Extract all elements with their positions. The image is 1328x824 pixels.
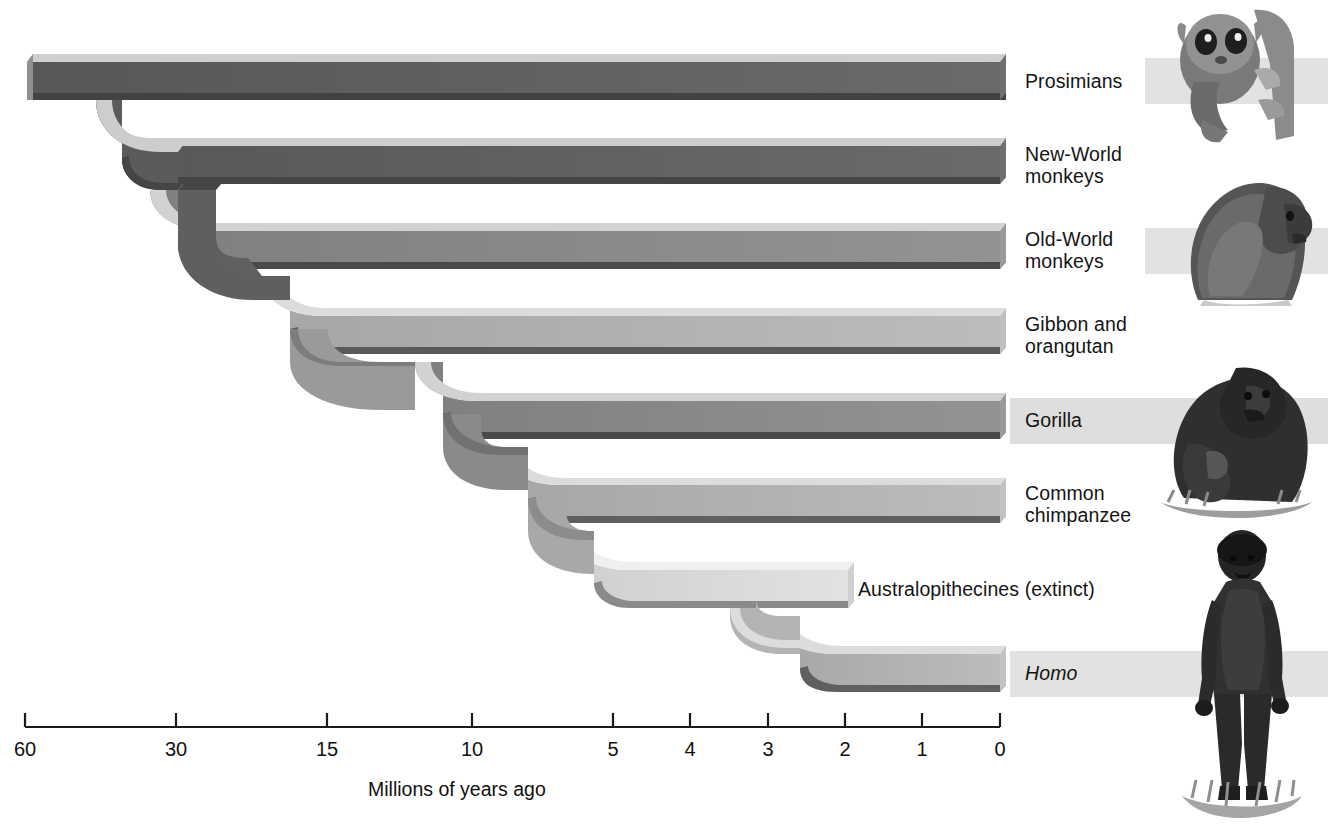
primate-phylogeny-figure: Prosimians New-World monkeys Old-World m… [0,0,1328,824]
taxon-label-australopithecines: Australopithecines (extinct) [858,578,1095,600]
axis-tick-label-10: 10 [461,738,483,761]
axis-tick-label-4: 4 [684,738,695,761]
axis-tick-label-3: 3 [762,738,773,761]
scan-band-2 [1145,228,1328,274]
axis-title: Millions of years ago [368,778,546,801]
taxon-label-gorilla: Gorilla [1025,409,1082,431]
time-axis [0,700,1328,760]
taxon-label-gibbon-and-orangutan: Gibbon and orangutan [1025,313,1127,357]
scan-band-1 [1145,58,1328,104]
axis-tick-label-0: 0 [994,738,1005,761]
taxon-label-homo: Homo [1025,662,1077,684]
axis-tick-label-60: 60 [14,738,36,761]
taxon-label-old-world-monkeys: Old-World monkeys [1025,228,1113,272]
axis-tick-label-1: 1 [916,738,927,761]
axis-tick-label-5: 5 [607,738,618,761]
axis-tick-label-2: 2 [839,738,850,761]
taxon-label-new-world-monkeys: New-World monkeys [1025,143,1122,187]
axis-tick-label-30: 30 [165,738,187,761]
axis-tick-label-15: 15 [316,738,338,761]
taxon-label-common-chimpanzee: Common chimpanzee [1025,482,1131,526]
taxon-label-prosimians: Prosimians [1025,70,1122,92]
